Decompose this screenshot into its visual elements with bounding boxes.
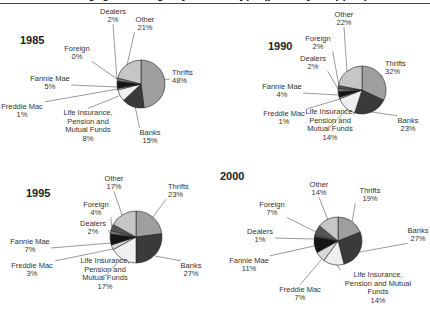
slice-label-foreign: Foreign7% xyxy=(259,200,284,218)
slice-label-foreign: Foreign4% xyxy=(83,200,108,218)
pie-panel-2000: 2000Thrifts19%Banks27%Life Insurance,Pen… xyxy=(220,170,429,305)
pie-panel-1985: 1985Thrifts48%Banks15%Life Insurance,Pen… xyxy=(1,7,193,146)
year-label: 2000 xyxy=(220,170,244,182)
leader-line xyxy=(319,197,328,220)
pie-panel-1990: 1990Thrifts32%Banks23%Life Insurance,Pen… xyxy=(262,10,418,142)
leader-line xyxy=(51,243,111,248)
slice-banks xyxy=(136,234,162,263)
slice-label-other: Other22% xyxy=(335,10,354,28)
leader-line xyxy=(270,246,314,256)
slice-label-life-insurance-pension-and-mutual-funds: Life Insurance,Pension andMutual Funds8% xyxy=(63,108,112,143)
pie xyxy=(117,60,165,108)
slice-label-dealers: Dealers2% xyxy=(300,54,326,72)
year-label: 1985 xyxy=(20,34,44,46)
slice-label-dealers: Dealers2% xyxy=(100,7,126,25)
slice-label-thrifts: Thrifts19% xyxy=(360,186,381,204)
leader-line xyxy=(113,24,117,80)
pie-panel-1995: 1995Thrifts23%Banks27%Life Insurance,Pen… xyxy=(10,174,201,291)
slice-label-fannie-mae: Fannie Mae5% xyxy=(30,74,70,92)
year-label: 1990 xyxy=(268,40,292,52)
slice-label-other: Other17% xyxy=(105,174,124,192)
slice-label-fannie-mae: Fannie Mae11% xyxy=(229,256,269,274)
leader-line xyxy=(114,191,122,215)
slice-label-banks: Banks23% xyxy=(398,116,419,134)
pie-panels: 1985Thrifts48%Banks15%Life Insurance,Pen… xyxy=(1,7,429,305)
leader-line xyxy=(135,106,140,128)
leader-line xyxy=(352,203,355,222)
leader-line xyxy=(88,96,119,108)
slice-label-fannie-mae: Fannie Mae4% xyxy=(262,82,302,100)
leader-line xyxy=(300,259,322,285)
leader-line xyxy=(111,217,112,228)
year-label: 1995 xyxy=(26,187,50,199)
leader-line xyxy=(360,243,408,252)
leader-line xyxy=(328,71,338,89)
leader-line xyxy=(344,27,347,72)
leader-line xyxy=(71,85,117,87)
slice-label-dealers: Dealers1% xyxy=(247,227,273,245)
leader-line xyxy=(153,199,166,217)
pie xyxy=(110,211,162,263)
slice-thrifts xyxy=(141,60,165,108)
slice-label-banks: Banks27% xyxy=(408,226,429,244)
cropped-title: Mortgage Holdings by Holder Type (partia… xyxy=(0,0,430,4)
slice-label-life-insurance-pension-and-mutual-funds: Life Insurance,Pension andMutual Funds17… xyxy=(80,256,129,291)
slice-label-fannie-mae: Fannie Mae7% xyxy=(10,237,50,255)
slice-label-dealers: Dealers2% xyxy=(80,219,106,237)
slice-label-freddie-mac: Freddie Mac7% xyxy=(279,285,321,303)
slice-thrifts xyxy=(136,211,162,237)
slice-label-freddie-mac: Freddie Mac1% xyxy=(1,102,43,120)
slice-label-banks: Banks15% xyxy=(140,128,161,146)
slice-label-foreign: Foreign2% xyxy=(305,34,330,52)
slice-label-other: Other14% xyxy=(310,180,329,198)
slice-label-life-insurance-pension-and-mutual-funds: Life Insurance,Pension and MutualFunds14… xyxy=(345,270,412,305)
leader-line xyxy=(333,51,339,86)
slice-other xyxy=(338,66,362,90)
slice-label-thrifts: Thrifts48% xyxy=(172,68,193,86)
leader-line xyxy=(92,61,117,79)
leader-line xyxy=(155,256,181,261)
slice-label-life-insurance-pension-and-mutual-funds: Life Insurance,Pension andMutual Funds14… xyxy=(305,107,354,142)
slice-label-freddie-mac: Freddie Mac1% xyxy=(263,109,305,127)
slice-label-thrifts: Thrifts32% xyxy=(385,59,406,77)
leader-line xyxy=(45,89,118,102)
leader-line xyxy=(303,93,338,95)
leader-line xyxy=(287,217,316,232)
slice-label-thrifts: Thrifts23% xyxy=(168,182,189,200)
chart-title-fragment: Mortgage Holdings by Holder Type (partia… xyxy=(62,0,368,1)
pie xyxy=(314,217,362,265)
leader-line xyxy=(127,32,135,65)
slice-label-other: Other21% xyxy=(136,15,155,33)
leader-line xyxy=(275,238,314,239)
leader-line xyxy=(372,112,398,116)
slice-label-freddie-mac: Freddie Mac3% xyxy=(11,261,53,279)
slice-label-banks: Banks27% xyxy=(181,261,202,279)
pie-chart-grid: Mortgage Holdings by Holder Type (partia… xyxy=(0,0,430,313)
slice-label-foreign: Foreign0% xyxy=(64,44,89,62)
